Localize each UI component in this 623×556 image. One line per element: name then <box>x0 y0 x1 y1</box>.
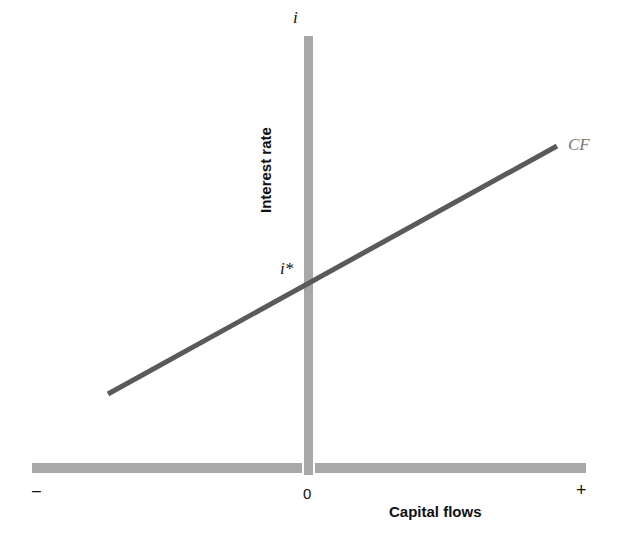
x-axis-right <box>315 463 586 473</box>
y-axis-label: Interest rate <box>257 127 274 213</box>
equilibrium-label: i* <box>280 259 294 278</box>
x-tick-zero: 0 <box>303 485 311 502</box>
x-tick-positive: + <box>576 480 587 500</box>
capital-flows-diagram: i Interest rate i* CF – 0 + Capital flow… <box>0 0 623 556</box>
y-axis-symbol: i <box>293 8 298 27</box>
x-axis-label: Capital flows <box>389 503 482 520</box>
cf-curve <box>108 146 557 394</box>
y-axis <box>304 36 313 475</box>
cf-curve-label: CF <box>568 135 590 154</box>
x-axis-left <box>32 463 302 473</box>
x-tick-negative: – <box>32 482 41 499</box>
